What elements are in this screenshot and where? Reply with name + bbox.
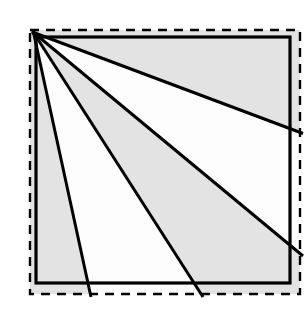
geometric-figure xyxy=(0,0,307,310)
diagram-canvas xyxy=(0,0,307,310)
apex-vertex xyxy=(31,30,35,34)
